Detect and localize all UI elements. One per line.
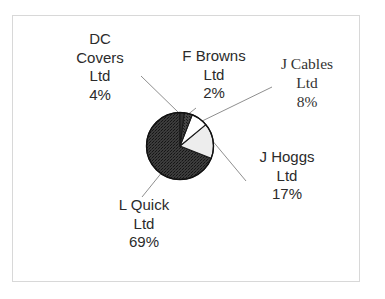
pie-slices: [146, 112, 213, 179]
leader-line-j-hoggs: [211, 139, 246, 181]
pie-label-l-quick-value: 69%: [96, 233, 192, 252]
leader-line-l-quick: [142, 171, 163, 197]
pie-label-dc-covers-line3: Ltd: [58, 67, 142, 86]
pie-label-f-browns: F Browns Ltd 2%: [168, 47, 260, 103]
pie-label-j-cables-line2: Ltd: [262, 73, 352, 92]
pie-label-j-hoggs-value: 17%: [243, 185, 331, 204]
pie-label-l-quick-line2: Ltd: [96, 215, 192, 234]
pie-label-l-quick: L Quick Ltd 69%: [96, 196, 192, 252]
pie-label-dc-covers-value: 4%: [58, 86, 142, 105]
pie-label-j-cables-value: 8%: [262, 92, 352, 111]
pie-label-f-browns-value: 2%: [168, 84, 260, 103]
pie-label-dc-covers: DC Covers Ltd 4%: [58, 30, 142, 104]
pie-label-f-browns-line1: F Browns: [168, 47, 260, 66]
pie-chart-screenshot: DC Covers Ltd 4% F Browns Ltd 2% J Cable…: [0, 0, 385, 299]
pie-label-dc-covers-line2: Covers: [58, 49, 142, 68]
pie-label-j-hoggs-line2: Ltd: [243, 167, 331, 186]
pie-label-j-hoggs: J Hoggs Ltd 17%: [243, 148, 331, 204]
pie-label-dc-covers-line1: DC: [58, 30, 142, 49]
pie-label-j-hoggs-line1: J Hoggs: [243, 148, 331, 167]
pie-label-f-browns-line2: Ltd: [168, 66, 260, 85]
pie-label-l-quick-line1: L Quick: [96, 196, 192, 215]
pie-label-j-cables: J Cables Ltd 8%: [262, 54, 352, 112]
pie-label-j-cables-line1: J Cables: [262, 54, 352, 73]
